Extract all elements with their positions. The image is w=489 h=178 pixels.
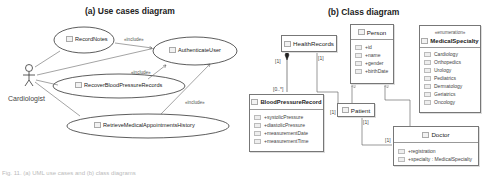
enum-medical-specialty: «enumeration» MedicalSpecialty Cardiolog…	[419, 25, 481, 113]
class-header: HealthRecords	[282, 36, 336, 51]
figure-caption: Fig. 11. (a) UML use cases and (b) class…	[2, 170, 136, 176]
attribute-icon	[254, 115, 261, 120]
class-patient: Patient	[337, 103, 375, 117]
class-header: Doctor	[394, 127, 478, 143]
include-label: «include»	[185, 100, 205, 105]
class-icon	[358, 29, 365, 35]
class-header: Person	[351, 25, 393, 40]
use-case-icon	[169, 47, 176, 53]
attribute-icon	[355, 61, 362, 66]
class-icon	[342, 107, 349, 113]
literal-icon	[424, 68, 431, 73]
attribute-icon	[355, 53, 362, 58]
multiplicity-label: [1]	[385, 137, 391, 143]
use-case-label-record-notes: RecordNotes	[66, 36, 108, 42]
multiplicity-label: [0..*]	[273, 86, 283, 92]
attribute: +birthDate	[355, 67, 389, 75]
enum-literal: Cardiology	[424, 50, 476, 58]
attribute-list: +registration +specialty : MedicalSpecia…	[394, 143, 478, 166]
class-blood-pressure-record: BloodPressureRecord +systolicPressure +d…	[249, 94, 324, 152]
multiplicity-label: [1]	[363, 119, 369, 125]
class-icon	[284, 41, 291, 47]
class-person: Person +id +name +gender +birthDate	[350, 24, 394, 84]
attribute: +specialty : MedicalSpecialty	[398, 155, 474, 163]
attribute-list: +id +name +gender +birthDate	[351, 40, 393, 78]
include-label: «include»	[124, 37, 144, 42]
attribute: +name	[355, 51, 389, 59]
class-doctor: Doctor +registration +specialty : Medica…	[393, 126, 479, 166]
attribute-icon	[398, 149, 405, 154]
class-header: BloodPressureRecord	[250, 95, 323, 110]
literal-icon	[424, 52, 431, 57]
attribute: +systolicPressure	[254, 113, 319, 121]
attribute-icon	[254, 131, 261, 136]
enum-literal: Orthopedics	[424, 58, 476, 66]
attribute: +measurementTime	[254, 137, 319, 145]
literal-icon	[424, 76, 431, 81]
literal-icon	[424, 100, 431, 105]
class-health-records: HealthRecords	[281, 35, 337, 52]
actor-label: Cardiologist	[8, 95, 45, 102]
attribute-icon	[398, 157, 405, 162]
use-case-label-recover-bp-records: RecoverBloodPressureRecords	[75, 82, 162, 88]
enum-stereotype: «enumeration»	[420, 26, 480, 35]
attribute-icon	[355, 45, 362, 50]
attribute: +gender	[355, 59, 389, 67]
multiplicity-label: [1]	[275, 58, 281, 64]
class-icon	[251, 99, 258, 105]
multiplicity-label: [1]	[330, 109, 336, 115]
attribute: +id	[355, 43, 389, 51]
attribute: +diastolicPressure	[254, 121, 319, 129]
enum-literal: Geriatrics	[424, 90, 476, 98]
literal-icon	[424, 84, 431, 89]
use-case-label-authenticate-user: AuthenticateUser	[169, 47, 221, 53]
literal-icon	[424, 60, 431, 65]
attribute-icon	[355, 69, 362, 74]
enum-icon	[421, 38, 428, 44]
literal-list: Cardiology Orthopedics Urology Pediatric…	[420, 48, 480, 109]
literal-icon	[424, 92, 431, 97]
enum-literal: Oncology	[424, 98, 476, 106]
use-case-label-retrieve-appointments: RetrieveMedicalAppointmentsHistory	[94, 122, 195, 128]
use-case-icon	[75, 82, 82, 88]
attribute-list: +systolicPressure +diastolicPressure +me…	[250, 110, 323, 148]
use-case-icon	[94, 122, 101, 128]
include-label: «include»	[131, 70, 151, 75]
multiplicity-label: [1]	[318, 55, 324, 61]
class-header: Patient	[338, 104, 374, 116]
enum-literal: Dermatology	[424, 82, 476, 90]
class-icon	[422, 132, 429, 138]
attribute-icon	[254, 139, 261, 144]
attribute-icon	[254, 123, 261, 128]
attribute: +measurementDate	[254, 129, 319, 137]
use-case-icon	[66, 36, 73, 42]
enum-literal: Urology	[424, 66, 476, 74]
class-header: MedicalSpecialty	[420, 35, 480, 48]
enum-literal: Pediatrics	[424, 74, 476, 82]
attribute: +registration	[398, 147, 474, 155]
